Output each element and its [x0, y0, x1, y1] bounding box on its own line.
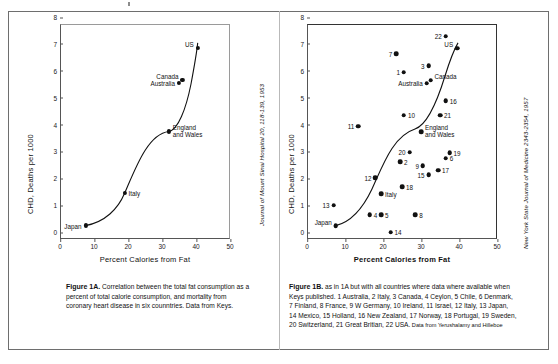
data-point-label: 2: [404, 158, 408, 165]
journal-citation-1b: New York State Journal of Medicine 2343-…: [522, 98, 529, 249]
data-point-label: 3: [421, 62, 425, 69]
y-axis-label-1b: CHD, Deaths per 1000: [287, 134, 296, 214]
data-point-label: Japan: [315, 218, 332, 225]
y-tick-1a: 3: [53, 148, 60, 155]
data-point-label: 21: [444, 112, 451, 119]
data-point-label: 8: [419, 211, 423, 218]
data-point: [334, 223, 339, 228]
data-point: [421, 164, 426, 169]
x-tick-1a: 20: [124, 239, 131, 250]
data-point-label: 18: [406, 183, 413, 190]
data-point-label: Canada: [435, 73, 457, 80]
x-tick-1b: 20: [379, 239, 386, 250]
data-point: [428, 78, 433, 83]
data-point-label: Canada: [156, 73, 178, 80]
data-point-label: US: [185, 41, 194, 48]
y-tick-1b: 6: [300, 67, 307, 74]
y-tick-1b: 1: [300, 202, 307, 209]
data-point-label: 5: [385, 211, 389, 218]
data-point-label: Italy: [129, 190, 141, 197]
data-point: [426, 63, 431, 68]
data-point: [443, 34, 448, 39]
data-point: [394, 51, 399, 56]
y-tick-1a: 1: [53, 202, 60, 209]
x-tick-1b: 10: [341, 239, 348, 250]
data-point: [455, 46, 460, 51]
data-point-label: 14: [395, 229, 402, 236]
caption-1b-source: Data from Yerushalamy and Hilleboe: [410, 322, 502, 328]
data-point: [356, 124, 361, 129]
caption-1a: Figure 1A. Correlation between the total…: [66, 282, 251, 311]
data-point: [379, 213, 384, 218]
data-point-label: 12: [364, 174, 371, 181]
data-point: [419, 129, 424, 134]
panel-figure-1b: CHD, Deaths per 1000 Percent Calories fr…: [279, 11, 549, 350]
x-tick-1a: 0: [58, 239, 62, 250]
x-tick-1b: 40: [455, 239, 462, 250]
data-point: [443, 98, 448, 103]
data-point-label: 19: [454, 149, 461, 156]
data-point-label: 20: [399, 149, 406, 156]
axes-1a: [60, 24, 230, 239]
data-point-label: 10: [408, 112, 415, 119]
data-point: [367, 213, 372, 218]
data-point-label: 1: [396, 69, 400, 76]
data-point: [413, 213, 418, 218]
y-tick-1a: 8: [53, 14, 60, 21]
data-point: [400, 184, 405, 189]
y-axis-label-1a: CHD, Deaths per 1000: [26, 134, 35, 214]
x-axis-label-1a: Percent Calories from Fat: [100, 255, 190, 264]
data-point: [373, 176, 378, 181]
data-point: [402, 70, 407, 75]
y-tick-1a: 5: [53, 94, 60, 101]
panel-figure-1a: CHD, Deaths per 1000 Percent Calories fr…: [8, 11, 279, 350]
data-point: [402, 113, 407, 118]
data-point-label: Englandand Wales: [173, 124, 203, 138]
caption-1b: Figure 1B. as in 1A but with all countri…: [289, 282, 517, 330]
caption-1a-label: Figure 1A.: [66, 283, 100, 290]
data-point: [447, 151, 452, 156]
data-point-label: 9: [415, 162, 419, 169]
data-point-label: 22: [435, 33, 442, 40]
data-point: [407, 150, 412, 155]
data-point-label: Italy: [385, 190, 397, 197]
data-point: [438, 113, 443, 118]
y-tick-1b: 5: [300, 94, 307, 101]
y-tick-1b: 0: [300, 229, 307, 236]
scan-artifact: [128, 2, 130, 6]
data-point-label: 13: [323, 202, 330, 209]
data-point-label: 4: [374, 211, 378, 218]
x-tick-1a: 40: [192, 239, 199, 250]
data-point-label: Australia: [151, 80, 176, 87]
y-tick-1a: 7: [53, 40, 60, 47]
data-point: [388, 230, 393, 235]
data-point-label: 15: [418, 172, 425, 179]
plot-area-1b: CHD, Deaths per 1000 Percent Calories fr…: [307, 24, 497, 239]
y-tick-1a: 6: [53, 67, 60, 74]
data-point-label: 7: [389, 50, 393, 57]
data-point-label: Japan: [64, 222, 81, 229]
x-tick-1a: 30: [158, 239, 165, 250]
data-point-label: Englandand Wales: [425, 124, 455, 138]
data-point-label: 16: [450, 97, 457, 104]
y-tick-1a: 0: [53, 229, 60, 236]
data-point-label: 11: [348, 123, 355, 130]
data-point: [443, 156, 448, 161]
figure-page: CHD, Deaths per 1000 Percent Calories fr…: [0, 0, 558, 364]
data-point: [331, 203, 336, 208]
y-tick-1a: 2: [53, 175, 60, 182]
y-tick-1b: 2: [300, 175, 307, 182]
y-tick-1a: 4: [53, 121, 60, 128]
caption-1b-label: Figure 1B.: [289, 283, 323, 290]
data-point-label: 17: [442, 167, 449, 174]
x-tick-1b: 30: [417, 239, 424, 250]
data-point: [379, 192, 384, 197]
y-tick-1b: 3: [300, 148, 307, 155]
x-tick-1b: 0: [305, 239, 309, 250]
data-point: [398, 159, 403, 164]
x-axis-label-1b: Percent Calories from Fat: [354, 255, 450, 264]
plot-area-1a: CHD, Deaths per 1000 Percent Calories fr…: [60, 24, 230, 239]
x-tick-1a: 50: [226, 239, 233, 250]
data-point-label: Australia: [398, 80, 423, 87]
x-tick-1b: 50: [493, 239, 500, 250]
